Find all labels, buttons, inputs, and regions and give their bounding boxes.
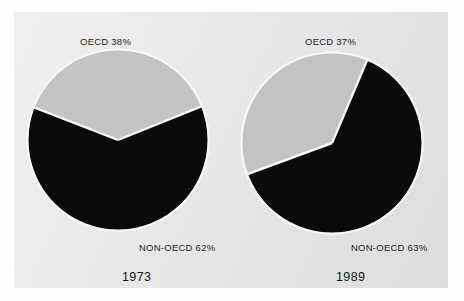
pie-label-nonoecd-1989: NON-OECD 63% [351, 242, 427, 253]
pie-label-oecd-1989: OECD 37% [305, 36, 356, 47]
chart-panel: OECD 38% NON-OECD 62% 1973 OECD 37% NON-… [14, 12, 448, 288]
year-label-1989: 1989 [336, 270, 365, 284]
pie-chart-1989: OECD 37% NON-OECD 63% 1989 [14, 12, 448, 288]
figure-canvas: OECD 38% NON-OECD 62% 1973 OECD 37% NON-… [0, 0, 464, 301]
